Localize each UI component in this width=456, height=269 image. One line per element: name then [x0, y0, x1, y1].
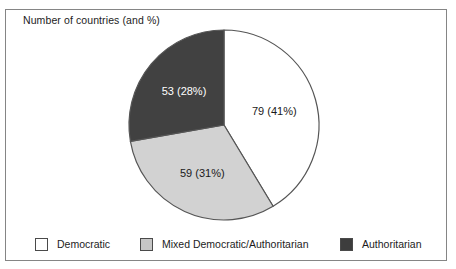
legend-swatch-authoritarian — [340, 238, 353, 251]
legend-item-mixed-democratic-authoritarian: Mixed Democratic/Authoritarian — [140, 236, 308, 252]
legend-label-democratic: Democratic — [57, 238, 110, 250]
legend-label-authoritarian: Authoritarian — [362, 238, 422, 250]
pie-chart: 79 (41%)59 (31%)53 (28%) — [0, 0, 456, 269]
pie-slice-label-democratic: 79 (41%) — [252, 105, 297, 117]
pie-slice-label-mixed-democratic-authoritarian: 59 (31%) — [180, 167, 225, 179]
legend-swatch-mixed-democratic-authoritarian — [140, 238, 153, 251]
legend-label-mixed-democratic-authoritarian: Mixed Democratic/Authoritarian — [162, 238, 308, 250]
legend-swatch-democratic — [35, 238, 48, 251]
legend-item-democratic: Democratic — [35, 236, 110, 252]
figure-canvas: Number of countries (and %) 79 (41%)59 (… — [0, 0, 456, 269]
legend-item-authoritarian: Authoritarian — [340, 236, 422, 252]
pie-slice-label-authoritarian: 53 (28%) — [162, 85, 207, 97]
